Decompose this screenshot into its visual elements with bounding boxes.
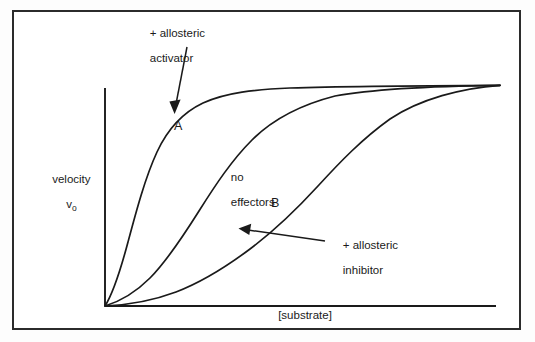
y-axis-label: velocity vo — [34, 160, 96, 225]
y-axis-label-line-2: vo — [66, 198, 76, 210]
inhibitor-line-1: + allosteric — [343, 239, 398, 251]
curve-label-a: A — [174, 120, 182, 133]
annotation-no-effectors: no effectors — [218, 158, 275, 221]
figure-root: + allosteric activator + allosteric inhi… — [0, 0, 535, 342]
y-axis-label-subscript: o — [72, 203, 77, 213]
y-axis-label-line-1: velocity — [52, 173, 90, 185]
caption-partial — [14, 334, 514, 341]
no-effectors-line-1: no — [231, 171, 244, 183]
curve-label-b: B — [271, 197, 279, 210]
x-axis-label: [substrate] — [250, 309, 360, 322]
activator-line-1: + allosteric — [150, 27, 205, 39]
activator-line-2: activator — [150, 52, 193, 64]
inhibitor-line-2: inhibitor — [343, 264, 383, 276]
annotation-allosteric-inhibitor: + allosteric inhibitor — [330, 226, 398, 289]
annotation-allosteric-activator: + allosteric activator — [137, 14, 205, 77]
no-effectors-line-2: effectors — [231, 196, 275, 208]
